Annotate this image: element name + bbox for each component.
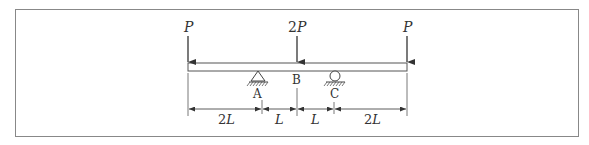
dim-label-2: L: [274, 112, 284, 127]
support-c-label: C: [330, 87, 339, 101]
beam: [188, 63, 407, 71]
dim-label-1: 2L: [218, 112, 235, 127]
load-right-label: P: [402, 19, 413, 35]
beam-diagram: P 2P P A C B 2L L L 2L: [0, 0, 589, 145]
dim-label-3: L: [310, 112, 320, 127]
load-left: P: [183, 19, 194, 62]
load-center-label: 2P: [288, 19, 307, 35]
point-b-label: B: [292, 73, 301, 87]
load-right: P: [402, 19, 413, 62]
support-a-pin-icon: A: [247, 71, 268, 101]
support-c-roller-icon: C: [324, 71, 345, 101]
load-center: 2P: [288, 19, 307, 62]
support-a-label: A: [252, 87, 262, 101]
load-left-label: P: [183, 19, 194, 35]
dim-label-4: 2L: [364, 112, 381, 127]
